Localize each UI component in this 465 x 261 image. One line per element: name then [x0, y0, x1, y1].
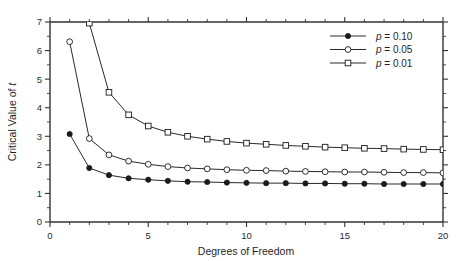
series-2: [70, 0, 446, 153]
x-tick-label: 0: [47, 230, 52, 241]
data-point: [67, 39, 73, 45]
data-point: [283, 181, 288, 186]
data-point: [67, 131, 72, 136]
data-point: [421, 181, 426, 186]
data-point: [126, 158, 132, 164]
x-axis-title: Degrees of Freedom: [198, 245, 295, 257]
legend-marker: [345, 33, 350, 38]
chart-canvas: 0123456705101520 p = 0.10p = 0.05p = 0.0…: [0, 0, 465, 261]
data-point: [283, 168, 289, 174]
legend-item-0: p = 0.10: [330, 31, 413, 42]
data-point: [421, 147, 427, 153]
data-point: [303, 181, 308, 186]
data-point: [244, 167, 250, 173]
y-tick-label: 2: [37, 159, 42, 170]
data-series-group: [67, 0, 446, 187]
y-axis-title-prefix: Critical Value of: [6, 86, 18, 162]
legend-item-2: p = 0.01: [330, 58, 413, 69]
data-point: [165, 164, 171, 170]
y-tick-label: 7: [37, 16, 42, 27]
data-point: [362, 181, 367, 186]
data-point: [224, 180, 229, 185]
x-tick-label: 15: [339, 230, 350, 241]
data-point: [244, 140, 250, 146]
legend-marker: [345, 60, 351, 66]
data-point: [185, 165, 191, 171]
data-point: [420, 170, 426, 176]
legend-marker: [345, 47, 351, 53]
chart-legend: p = 0.10p = 0.05p = 0.01: [330, 31, 413, 69]
data-point: [342, 181, 347, 186]
data-point: [381, 146, 387, 152]
x-tick-label: 10: [241, 230, 252, 241]
data-point: [145, 123, 151, 129]
data-point: [204, 136, 210, 142]
data-point: [263, 141, 269, 147]
x-tick-label: 5: [146, 230, 151, 241]
series-0: [67, 131, 446, 186]
data-point: [323, 181, 328, 186]
data-point: [322, 169, 328, 175]
data-point: [283, 143, 289, 149]
data-point: [185, 179, 190, 184]
data-point: [401, 170, 407, 176]
data-point: [303, 143, 309, 149]
series-line-0: [70, 134, 443, 184]
data-point: [342, 145, 348, 151]
data-point: [204, 166, 210, 172]
y-tick-label: 3: [37, 131, 42, 142]
y-axis-title-italic-t: t: [6, 82, 18, 86]
data-point: [244, 180, 249, 185]
data-point: [146, 177, 151, 182]
data-point: [264, 181, 269, 186]
data-point: [440, 181, 445, 186]
y-axis-title: Critical Value of t: [6, 82, 18, 162]
y-tick-label: 4: [37, 102, 42, 113]
data-point: [165, 129, 171, 135]
chart-figure: 0123456705101520 p = 0.10p = 0.05p = 0.0…: [0, 0, 465, 261]
data-point: [440, 147, 446, 153]
data-point: [145, 161, 151, 167]
data-point: [362, 169, 368, 175]
data-point: [224, 167, 230, 173]
data-point: [87, 165, 92, 170]
data-point: [126, 112, 132, 118]
data-point: [106, 173, 111, 178]
y-tick-label: 5: [37, 74, 42, 85]
data-point: [440, 170, 446, 176]
data-point: [165, 178, 170, 183]
x-tick-label: 20: [438, 230, 449, 241]
legend-label: p = 0.05: [375, 44, 413, 55]
data-point: [205, 179, 210, 184]
data-point: [303, 169, 309, 175]
data-point: [401, 181, 406, 186]
data-point: [322, 144, 328, 150]
data-point: [106, 89, 112, 95]
legend-label: p = 0.01: [375, 58, 413, 69]
data-point: [263, 168, 269, 174]
y-tick-label: 0: [37, 216, 42, 227]
y-tick-label: 6: [37, 45, 42, 56]
data-point: [342, 169, 348, 175]
legend-item-1: p = 0.05: [330, 44, 413, 55]
data-point: [381, 169, 387, 175]
svg-text:Critical Value of t: Critical Value of t: [6, 82, 18, 162]
y-tick-label: 1: [37, 188, 42, 199]
data-point: [106, 152, 112, 158]
data-point: [401, 146, 407, 152]
data-point: [126, 176, 131, 181]
data-point: [185, 133, 191, 139]
data-point: [86, 136, 92, 142]
data-point: [362, 145, 368, 151]
legend-label: p = 0.10: [375, 31, 413, 42]
data-point: [224, 139, 230, 145]
data-point: [381, 181, 386, 186]
